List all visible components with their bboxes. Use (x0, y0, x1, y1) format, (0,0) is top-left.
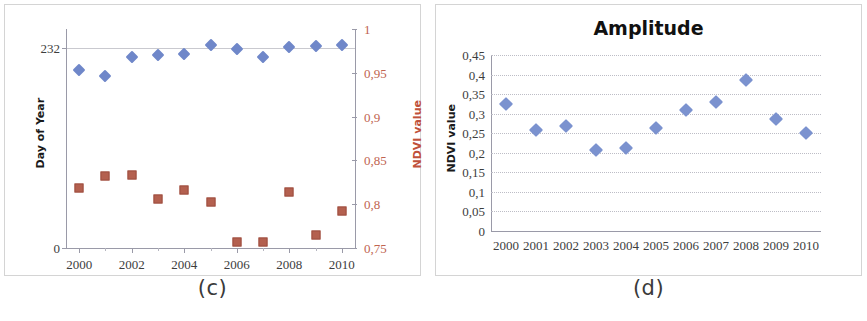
panel-c-point-diamond (204, 38, 217, 51)
panel-c-point-square (285, 187, 294, 196)
panel-c-y2tick-label: 0,85 (364, 154, 404, 167)
panel-c-point-square (259, 237, 268, 246)
panel-c-point-diamond (335, 39, 348, 52)
panel-c-xtick (184, 248, 185, 253)
panel-c-point-square (206, 197, 215, 206)
panel-c-xtick-label: 2004 (160, 258, 208, 271)
panel-c-xtick (237, 248, 238, 253)
panel-d-ytick-label: 0,35 (443, 88, 485, 101)
panel-d-point (799, 126, 813, 140)
panel-d-gridline (491, 75, 821, 76)
panel-c-xtick-label: 2010 (318, 258, 366, 271)
panel-c-xtick-label: 2008 (265, 258, 313, 271)
panel-d-point (529, 123, 543, 137)
panel-c-y2tick (352, 248, 357, 249)
panel-d-chart-title: Amplitude (436, 19, 861, 38)
panel-d-gridline (491, 211, 821, 212)
panel-c-xtick (79, 248, 80, 253)
panel-d-xtick-label: 2010 (784, 239, 828, 252)
panel-d: Amplitude 00,050,10,150,20,250,30,350,40… (435, 0, 862, 321)
panel-d-point (709, 94, 723, 108)
panel-c-y2tick-label: 0,95 (364, 67, 404, 80)
panel-d-gridline (491, 192, 821, 193)
panel-c-y2tick (352, 73, 357, 74)
panel-d-gridline (491, 231, 821, 232)
panel-d-gridline (491, 153, 821, 154)
panel-c-point-square (180, 186, 189, 195)
panel-d-ytick-label: 0 (443, 225, 485, 238)
panel-d-point (589, 143, 603, 157)
panel-c-xtick-minor (263, 248, 264, 251)
panel-c-plot-area: 02320,750,80,850,90,95120002002200420062… (66, 29, 355, 248)
panel-c-y2tick-label: 1 (364, 23, 404, 36)
panel-c-xtick-minor (105, 248, 106, 251)
panel-c-xtick (132, 248, 133, 253)
panel-d-ytick-label: 0,4 (443, 69, 485, 82)
panel-c-xtick-minor (211, 248, 212, 251)
panel-c-y2tick (352, 160, 357, 161)
panel-c-xtick-minor (158, 248, 159, 251)
panel-d-gridline (491, 55, 821, 56)
panel-d-frame: Amplitude 00,050,10,150,20,250,30,350,40… (435, 4, 862, 276)
panel-c-left-axis (66, 29, 67, 248)
panel-c-left-axis-title: Day of Year (35, 108, 46, 168)
panel-c-point-diamond (125, 50, 138, 63)
figure-row: 02320,750,80,850,90,95120002002200420062… (0, 0, 867, 321)
panel-c-xtick (342, 248, 343, 253)
panel-c-y2tick (352, 204, 357, 205)
panel-c-point-diamond (283, 41, 296, 54)
panel-d-left-axis (491, 55, 492, 231)
panel-c-point-square (153, 194, 162, 203)
panel-c-point-diamond (99, 70, 112, 83)
panel-c-y2tick (352, 29, 357, 30)
panel-c: 02320,750,80,850,90,95120002002200420062… (4, 0, 421, 321)
panel-d-left-axis-title: NDVI value (446, 113, 457, 173)
panel-d-ytick-label: 0,45 (443, 49, 485, 62)
panel-c-y2tick-label: 0,75 (364, 242, 404, 255)
panel-c-point-square (101, 172, 110, 181)
panel-c-xtick-minor (316, 248, 317, 251)
panel-c-xtick (289, 248, 290, 253)
panel-c-frame: 02320,750,80,850,90,95120002002200420062… (4, 4, 421, 276)
panel-c-point-square (75, 183, 84, 192)
panel-c-point-square (232, 237, 241, 246)
panel-c-ytick (62, 248, 67, 249)
panel-c-y2tick-label: 0,8 (364, 198, 404, 211)
panel-c-y2tick (352, 117, 357, 118)
panel-c-point-square (311, 230, 320, 239)
panel-c-point-diamond (230, 42, 243, 55)
panel-d-gridline (491, 172, 821, 173)
panel-d-caption: (d) (435, 276, 862, 300)
panel-c-right-axis (355, 29, 356, 248)
panel-d-point (679, 103, 693, 117)
panel-c-point-diamond (257, 51, 270, 64)
panel-c-xtick-label: 2006 (213, 258, 261, 271)
panel-c-ytick-label: 232 (20, 42, 60, 55)
panel-c-ytick-label: 0 (20, 242, 60, 255)
panel-c-point-diamond (152, 48, 165, 61)
panel-d-gridline (491, 94, 821, 95)
panel-c-point-square (127, 171, 136, 180)
panel-c-xtick-label: 2002 (108, 258, 156, 271)
panel-c-caption: (c) (4, 276, 421, 300)
panel-d-ytick-label: 0,1 (443, 186, 485, 199)
panel-d-ytick-label: 0,05 (443, 205, 485, 218)
panel-d-plot-area: 00,050,10,150,20,250,30,350,40,452000200… (491, 55, 821, 231)
panel-d-point (559, 119, 573, 133)
panel-c-ytick (62, 48, 67, 49)
panel-c-y2tick-label: 0,9 (364, 111, 404, 124)
panel-d-point (499, 97, 513, 111)
panel-c-point-diamond (178, 48, 191, 61)
panel-c-point-diamond (73, 63, 86, 76)
panel-c-xtick-label: 2000 (55, 258, 103, 271)
panel-c-point-diamond (309, 40, 322, 53)
panel-c-point-square (337, 207, 346, 216)
panel-c-right-axis-title: NDVI value (412, 108, 423, 168)
